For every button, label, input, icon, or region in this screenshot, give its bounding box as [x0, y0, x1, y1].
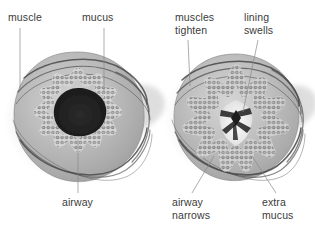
label-muscles-tighten: muscles tighten	[175, 11, 214, 36]
label-airway-narrows: airway narrows	[172, 196, 210, 221]
label-muscle: muscle	[8, 11, 42, 24]
label-lining-swells: lining swells	[244, 11, 273, 36]
label-mucus: mucus	[82, 11, 113, 24]
panel-asthmatic-airway	[164, 53, 315, 183]
label-airway: airway	[62, 196, 93, 209]
panel-normal-airway	[4, 52, 165, 184]
airway-lumen-left	[54, 88, 106, 136]
label-extra-mucus: extra mucus	[262, 196, 293, 221]
